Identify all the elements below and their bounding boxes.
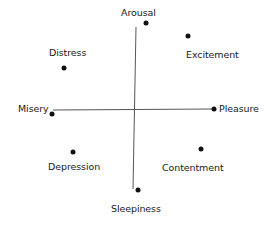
affect-circumplex-diagram: ArousalExcitementDistressMiseryPleasureD… [0, 0, 267, 225]
depression-label: Depression [48, 162, 100, 172]
vertical-axis [133, 27, 136, 189]
contentment-label: Contentment [162, 163, 224, 173]
arousal-dot [144, 21, 149, 26]
misery-dot [50, 112, 55, 117]
contentment-dot [199, 147, 204, 152]
distress-dot [62, 66, 67, 71]
misery-label: Misery [18, 104, 49, 114]
arousal-label: Arousal [121, 8, 156, 18]
sleepiness-label: Sleepiness [111, 204, 161, 214]
pleasure-label: Pleasure [219, 104, 259, 114]
horizontal-axis [53, 109, 213, 110]
distress-label: Distress [49, 48, 86, 58]
pleasure-dot [212, 107, 217, 112]
sleepiness-dot [136, 188, 141, 193]
depression-dot [71, 150, 76, 155]
excitement-label: Excitement [186, 50, 239, 60]
excitement-dot [186, 34, 191, 39]
